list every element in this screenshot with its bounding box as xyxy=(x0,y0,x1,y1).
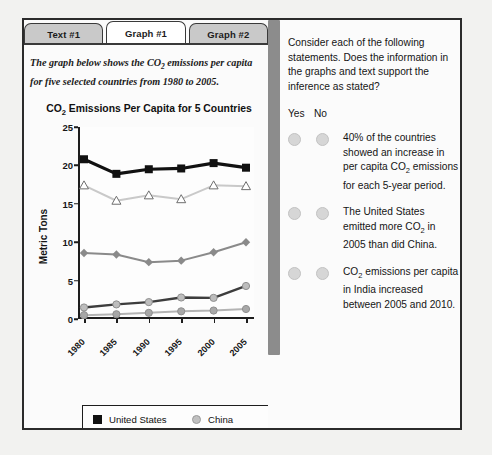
y-axis-tick-mark xyxy=(74,203,78,205)
tab-label: Text #1 xyxy=(47,29,80,40)
statement-row: The United States emitted more CO2 in 20… xyxy=(288,205,460,253)
legend-item-united-states: United States xyxy=(92,412,167,427)
data-point xyxy=(145,309,152,316)
radio-yes-3[interactable] xyxy=(288,267,301,280)
data-point xyxy=(242,164,250,172)
yes-column-label: Yes xyxy=(288,108,314,119)
statement-row: 40% of the countries showed an increase … xyxy=(288,131,460,193)
data-point xyxy=(113,301,120,308)
data-point xyxy=(145,165,153,173)
data-point xyxy=(113,311,120,318)
y-axis-tick-mark xyxy=(74,318,78,320)
data-point xyxy=(242,238,250,246)
x-axis-tick-label: 2000 xyxy=(195,337,216,358)
legend-label: China xyxy=(208,414,233,425)
data-point xyxy=(80,304,87,311)
radio-no-2[interactable] xyxy=(316,207,329,220)
no-column-label: No xyxy=(314,108,327,119)
tab-text-1[interactable]: Text #1 xyxy=(24,23,103,44)
radio-yes-1[interactable] xyxy=(288,133,301,146)
x-axis-tick-label: 1990 xyxy=(130,337,151,358)
question-prompt: Consider each of the following statement… xyxy=(288,36,456,94)
data-point xyxy=(242,282,249,289)
series-china xyxy=(80,282,249,311)
data-point xyxy=(145,258,153,266)
data-point xyxy=(80,249,88,257)
x-axis-tick-mark xyxy=(214,319,216,323)
panel-divider-scrollbar[interactable] xyxy=(268,20,280,355)
chart-plot-area: Metric Tons 0510152025198019851990199520… xyxy=(24,121,268,383)
data-point xyxy=(177,256,185,264)
data-point xyxy=(178,294,185,301)
x-axis-tick-label: 2005 xyxy=(228,337,249,358)
legend-item-india: India xyxy=(191,427,233,428)
chart-legend: United States Canada Norway xyxy=(82,405,268,428)
right-panel: Consider each of the following statement… xyxy=(288,36,460,312)
radio-no-3[interactable] xyxy=(316,267,329,280)
series-united-states xyxy=(80,155,250,178)
data-point xyxy=(210,307,217,314)
y-axis-tick-mark xyxy=(74,241,78,243)
page-background: Text #1 Graph #1 Graph #2 The graph belo… xyxy=(0,0,492,455)
data-point xyxy=(177,164,185,172)
y-axis-tick-mark xyxy=(74,126,78,128)
series-canada xyxy=(80,181,251,204)
data-point xyxy=(80,181,89,189)
data-point xyxy=(112,170,120,178)
statement-row: CO2 emissions per capita in India increa… xyxy=(288,265,460,313)
x-axis-tick-label: 1985 xyxy=(98,337,119,358)
intro-text: The graph below shows the CO2 emissions … xyxy=(30,55,262,89)
data-point xyxy=(210,159,218,167)
series-india xyxy=(80,305,249,318)
x-axis-tick-label: 1995 xyxy=(163,337,184,358)
yes-no-header: Yes No xyxy=(288,108,460,119)
x-axis-tick-mark xyxy=(84,319,86,323)
tab-graph-2[interactable]: Graph #2 xyxy=(189,23,268,44)
legend-label: United States xyxy=(109,414,167,425)
chart-title: CO2 Emissions Per Capita for 5 Countries xyxy=(34,103,264,117)
data-point xyxy=(178,308,185,315)
y-axis-tick-mark xyxy=(74,280,78,282)
y-axis-tick-mark xyxy=(74,165,78,167)
data-point xyxy=(145,299,152,306)
legend-column-left: United States Canada Norway xyxy=(92,412,167,428)
radio-no-1[interactable] xyxy=(316,133,329,146)
data-point xyxy=(112,250,120,258)
y-axis-label: Metric Tons xyxy=(38,192,49,282)
tab-graph-1[interactable]: Graph #1 xyxy=(106,21,185,44)
chart-canvas: 0510152025198019851990199520002005 xyxy=(78,127,254,319)
tab-bar: Text #1 Graph #1 Graph #2 xyxy=(24,20,268,44)
statement-text-1: 40% of the countries showed an increase … xyxy=(343,131,460,193)
x-axis-tick-label: 1980 xyxy=(66,337,87,358)
left-panel: The graph below shows the CO2 emissions … xyxy=(24,45,268,428)
filled-circle-dark-icon xyxy=(191,415,202,424)
data-point xyxy=(209,248,217,256)
legend-item-canada: Canada xyxy=(92,427,167,428)
data-point xyxy=(80,312,87,319)
legend-item-china: China xyxy=(191,412,233,427)
series-norway xyxy=(80,238,250,266)
x-axis-tick-mark xyxy=(181,319,183,323)
data-point xyxy=(80,155,88,163)
data-point xyxy=(210,294,217,301)
chart-series-svg xyxy=(78,127,254,319)
legend-column-right: China India xyxy=(191,412,233,428)
radio-yes-2[interactable] xyxy=(288,207,301,220)
x-axis-tick-mark xyxy=(246,319,248,323)
x-axis-tick-mark xyxy=(149,319,151,323)
tab-label: Graph #1 xyxy=(125,28,167,39)
x-axis-tick-mark xyxy=(116,319,118,323)
data-point xyxy=(242,305,249,312)
statement-text-3: CO2 emissions per capita in India increa… xyxy=(343,265,460,313)
filled-square-icon xyxy=(92,415,103,424)
statement-text-2: The United States emitted more CO2 in 20… xyxy=(343,205,460,253)
tab-label: Graph #2 xyxy=(207,29,249,40)
